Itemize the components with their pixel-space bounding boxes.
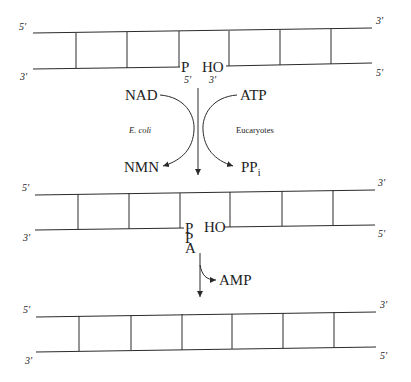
adenylated-dna-duplex: 5′ 3′ 3′ 5′ P P A HO [22,177,386,256]
hydroxyl-label: HO [202,59,224,75]
nad-curve-arrow [160,95,194,166]
bottom-strand [36,347,376,352]
label-5prime: 5′ [19,21,27,32]
sealed-dna-duplex: 5′ 3′ 3′ 5′ [23,299,388,366]
ppi-label: PPi [241,159,261,178]
atp-curve-arrow [203,95,237,166]
label-3prime: 3′ [19,71,28,82]
nick-5prime-label: 5′ [184,74,192,85]
bottom-strand-right [224,225,375,227]
ligase-diagram: 5′ 3′ 3′ 5′ P HO 5′ 3′ NAD ATP E. coli E… [0,0,411,382]
top-strand [33,28,372,33]
bottom-strand-right [226,63,372,66]
nick-3prime-label: 3′ [208,74,217,85]
adenosine-label: A [185,240,196,256]
bottom-strand-left [35,228,184,230]
label-5prime: 5′ [380,350,388,361]
nmn-label: NMN [124,159,159,175]
label-3prime: 3′ [24,355,33,366]
ecoli-label: E. coli [128,125,152,135]
label-5prime: 5′ [378,228,386,239]
nicked-dna-duplex: 5′ 3′ 3′ 5′ P HO 5′ 3′ [19,15,384,85]
amp-label: AMP [219,272,252,288]
label-5prime: 5′ [23,304,31,315]
atp-label: ATP [240,87,267,103]
amp-curve-arrow [200,265,216,280]
label-5prime: 5′ [376,67,384,78]
eucaryotes-label: Eucaryotes [236,125,274,135]
label-5prime: 5′ [22,182,30,193]
label-3prime: 3′ [377,177,386,188]
activation-step: NAD ATP E. coli Eucaryotes NMN PPi [124,87,274,178]
bottom-strand-left [33,67,180,69]
label-3prime: 3′ [375,15,384,26]
phosphate-label: P [181,59,189,75]
top-strand [36,312,376,317]
label-3prime: 3′ [22,232,31,243]
sealing-step: AMP [200,253,252,297]
nad-label: NAD [125,87,158,103]
top-strand [35,190,375,195]
hydroxyl-label: HO [204,219,226,235]
label-3prime: 3′ [379,299,388,310]
